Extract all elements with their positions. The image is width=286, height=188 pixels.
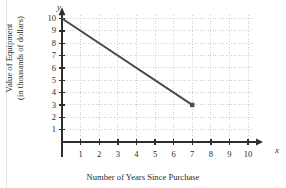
x-axis-title: Number of Years Since Purchase — [0, 172, 286, 182]
x-tick-label: 5 — [148, 150, 162, 159]
gridlines-group — [62, 15, 253, 142]
x-tick-label: 2 — [92, 150, 106, 159]
y-tick-label: 9 — [42, 26, 56, 35]
y-tick-label: 8 — [42, 39, 56, 48]
data-line-group — [62, 19, 194, 108]
x-tick-label: 3 — [111, 150, 125, 159]
x-tick-label: 8 — [204, 150, 218, 159]
y-tick-label: 7 — [42, 51, 56, 60]
y-tick-label: 1 — [42, 125, 56, 134]
y-tick-label: 2 — [42, 113, 56, 122]
y-tick-label: 5 — [42, 76, 56, 85]
y-axis-title-line-1: Value of Equipment — [4, 0, 15, 117]
x-tick-label: 7 — [185, 150, 199, 159]
x-tick-label: 6 — [167, 150, 181, 159]
x-tick-label: 9 — [222, 150, 236, 159]
x-tick-label: 1 — [74, 150, 88, 159]
x-axis-arrowhead — [256, 139, 263, 146]
x-tick-label: 4 — [129, 150, 143, 159]
y-tick-label: 6 — [42, 64, 56, 73]
x-axis-name: x — [275, 146, 279, 155]
x-tick-label: 10 — [241, 150, 255, 159]
data-point-marker-end — [190, 103, 194, 107]
axes-group — [59, 7, 263, 157]
coordinate-graph-figure: y x 12345678910 12345678910 Number of Ye… — [0, 0, 286, 188]
data-line-segment — [62, 19, 192, 105]
y-axis-title-line-2: (in thousands of dollars) — [15, 0, 26, 117]
y-tick-label: 4 — [42, 88, 56, 97]
tick-marks-group — [59, 19, 248, 146]
y-axis-name: y — [57, 3, 61, 12]
y-axis-title: Value of Equipment (in thousands of doll… — [4, 0, 34, 117]
y-tick-label: 10 — [42, 14, 56, 23]
y-tick-label: 3 — [42, 101, 56, 110]
